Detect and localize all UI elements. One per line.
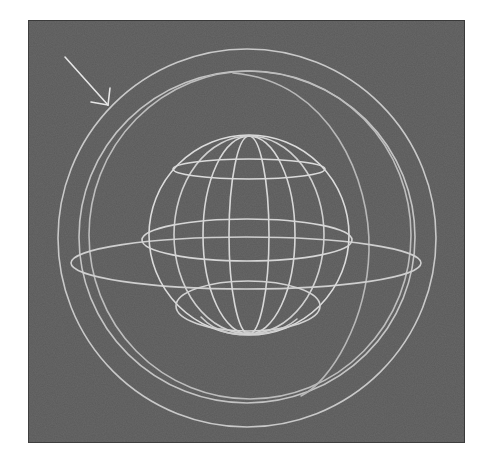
figure-page: Wireframe sphere nested inside larger co… — [0, 0, 486, 461]
figure-caption: Wireframe sphere nested inside larger co… — [0, 0, 1, 1]
diagram-panel — [28, 20, 465, 443]
panel-texture — [28, 20, 465, 443]
sphere-diagram — [28, 20, 465, 443]
